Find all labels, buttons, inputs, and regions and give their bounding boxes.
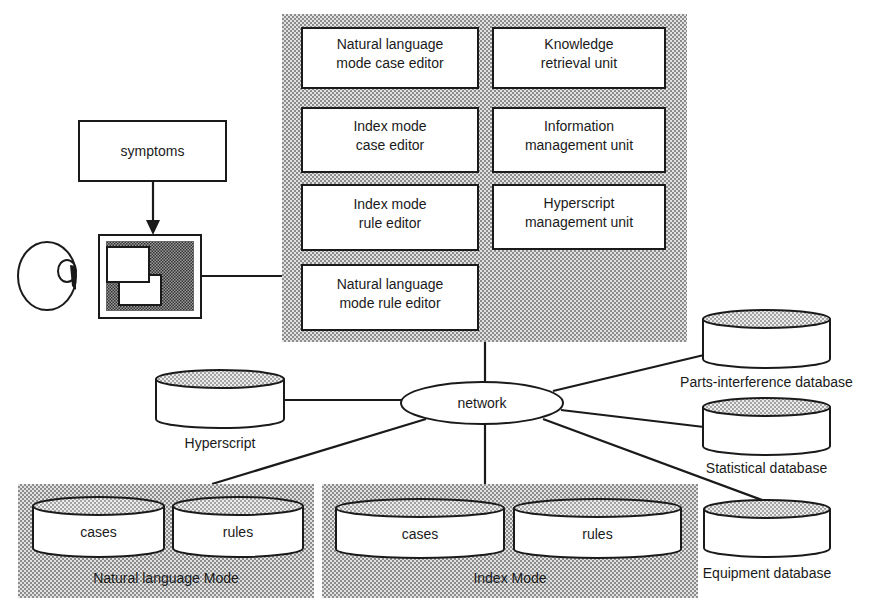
equipment-db[interactable]: Equipment database bbox=[703, 500, 832, 581]
unit-label: Hyperscript bbox=[544, 195, 615, 211]
parts-interference-db-label: Parts-interference database bbox=[680, 374, 853, 390]
unit-index-rule-editor[interactable]: Index moderule editor bbox=[302, 185, 478, 250]
unit-label: case editor bbox=[356, 137, 425, 153]
symptoms-label: symptoms bbox=[121, 143, 185, 159]
user-head-icon bbox=[18, 242, 76, 310]
symptoms-box[interactable]: symptoms bbox=[79, 121, 226, 181]
unit-label: management unit bbox=[525, 137, 633, 153]
unit-knowledge-retrieval[interactable]: Knowledgeretrieval unit bbox=[493, 28, 665, 88]
nl-cases-db[interactable]: cases bbox=[33, 497, 164, 557]
system-architecture-diagram: Natural languagemode case editorKnowledg… bbox=[0, 0, 885, 605]
unit-label: Natural language bbox=[337, 276, 444, 292]
unit-label: Information bbox=[544, 118, 614, 134]
unit-label: management unit bbox=[525, 214, 633, 230]
index-cases-db[interactable]: cases bbox=[336, 499, 504, 558]
parts-interference-db[interactable]: Parts-interference database bbox=[680, 310, 853, 390]
equipment-db-label: Equipment database bbox=[703, 565, 832, 581]
nl-mode-label: Natural language Mode bbox=[93, 570, 239, 586]
index-rules-db-label: rules bbox=[582, 526, 612, 542]
unit-label: Index mode bbox=[353, 196, 426, 212]
statistical-db-label: Statistical database bbox=[706, 460, 828, 476]
unit-information-management[interactable]: Informationmanagement unit bbox=[493, 108, 665, 172]
unit-index-case-editor[interactable]: Index modecase editor bbox=[302, 108, 478, 172]
unit-label: mode rule editor bbox=[339, 295, 441, 311]
hyperscript-db-label: Hyperscript bbox=[185, 435, 256, 451]
unit-label: mode case editor bbox=[336, 55, 444, 71]
arrow-head-icon bbox=[146, 220, 160, 235]
terminal-screen-icon[interactable] bbox=[99, 235, 201, 318]
network-node[interactable]: network bbox=[401, 382, 563, 424]
unit-label: Knowledge bbox=[544, 36, 613, 52]
statistical-db[interactable]: Statistical database bbox=[703, 398, 830, 476]
nl-cases-db-label: cases bbox=[80, 524, 117, 540]
nl-rules-db[interactable]: rules bbox=[173, 497, 303, 557]
unit-nl-rule-editor[interactable]: Natural languagemode rule editor bbox=[302, 265, 478, 330]
unit-hyperscript-management[interactable]: Hyperscriptmanagement unit bbox=[493, 185, 665, 249]
index-mode-label: Index Mode bbox=[473, 570, 546, 586]
connector-network-to-statistical-db bbox=[561, 410, 704, 427]
unit-label: Index mode bbox=[353, 118, 426, 134]
index-cases-db-label: cases bbox=[402, 526, 439, 542]
index-rules-db[interactable]: rules bbox=[514, 499, 681, 558]
unit-label: retrieval unit bbox=[541, 55, 617, 71]
network-label: network bbox=[457, 395, 507, 411]
connector-network-to-nl-mode bbox=[212, 419, 426, 484]
hyperscript-db[interactable]: Hyperscript bbox=[156, 370, 284, 451]
unit-label: rule editor bbox=[359, 215, 422, 231]
unit-label: Natural language bbox=[337, 36, 444, 52]
unit-nl-case-editor[interactable]: Natural languagemode case editor bbox=[302, 28, 478, 88]
system-panel: Natural languagemode case editorKnowledg… bbox=[282, 14, 687, 342]
nl-rules-db-label: rules bbox=[223, 524, 253, 540]
